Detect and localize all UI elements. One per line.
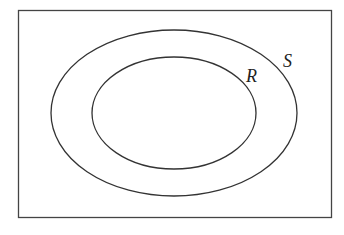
set-s-ellipse xyxy=(51,30,297,196)
set-s-label: S xyxy=(283,51,292,71)
universal-set-rectangle xyxy=(19,11,332,218)
set-r-label: R xyxy=(245,66,257,86)
set-r-ellipse xyxy=(92,57,256,169)
venn-diagram: R S xyxy=(0,0,344,235)
